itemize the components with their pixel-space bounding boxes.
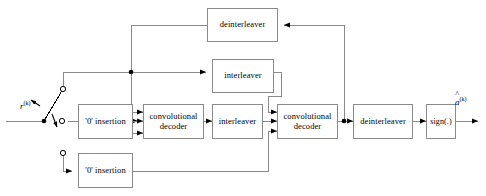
wire-switch-blade	[44, 89, 63, 121]
input-signal-index: (k)	[24, 100, 31, 106]
output-signal-label: a(k)	[455, 96, 467, 107]
terminal-lower	[60, 150, 65, 155]
block-label: interleaver	[219, 117, 256, 127]
block-label: convolutionaldecoder	[283, 112, 331, 132]
block-label: interleaver	[224, 71, 261, 81]
wire-node-to-deinterleaver-top	[131, 25, 207, 72]
block-zero-insertion-upper[interactable]: '0' insertion	[78, 104, 133, 139]
block-label: deinterleaver	[360, 117, 406, 127]
block-deinterleaver-top[interactable]: deinterleaver	[207, 8, 278, 42]
wire-top-branch	[63, 72, 131, 89]
block-label: sign(.)	[430, 117, 451, 126]
output-signal-index: (k)	[460, 96, 467, 102]
block-convolutional-decoder-2[interactable]: convolutionaldecoder	[277, 104, 338, 139]
block-sign-function[interactable]: sign(.)	[426, 104, 456, 139]
block-label: '0' insertion	[85, 117, 125, 127]
terminal-middle	[59, 118, 64, 123]
block-label: deinterleaver	[220, 20, 266, 30]
block-zero-insertion-lower[interactable]: '0' insertion	[78, 153, 133, 188]
switch-pivot-dot	[42, 119, 47, 124]
block-label: convolutionaldecoder	[149, 112, 197, 132]
terminal-upper	[60, 86, 65, 91]
junction-dot-upper	[129, 70, 134, 75]
block-label: '0' insertion	[85, 166, 125, 176]
block-interleaver-lower[interactable]: interleaver	[212, 104, 263, 139]
block-convolutional-decoder-1[interactable]: convolutionaldecoder	[143, 104, 204, 139]
output-signal-symbol: a	[455, 97, 460, 107]
block-interleaver-upper[interactable]: interleaver	[212, 59, 274, 93]
block-diagram-canvas: deinterleaver interleaver '0' insertion …	[0, 0, 486, 196]
junction-dot-output	[342, 119, 347, 124]
input-signal-label: r(k)	[20, 100, 31, 111]
block-deinterleaver-output[interactable]: deinterleaver	[353, 104, 413, 139]
